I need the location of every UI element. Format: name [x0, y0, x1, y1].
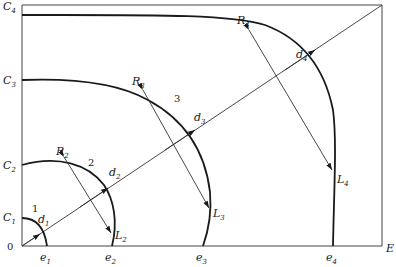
d1-arrow	[22, 234, 40, 246]
label-L4: L4	[336, 173, 349, 188]
label-d2: d2	[109, 166, 121, 181]
label-origin: 0	[7, 241, 13, 252]
label-C4: C4	[3, 0, 16, 15]
label-d3: d3	[194, 111, 206, 126]
label-e1: e1	[40, 251, 51, 266]
d2-arrow	[80, 188, 108, 207]
R2-L2-arrow	[64, 157, 111, 233]
curve-2-number: 2	[88, 157, 94, 168]
label-C3: C3	[3, 74, 16, 89]
curve-3	[22, 80, 211, 246]
label-e4: e4	[326, 251, 337, 266]
label-C2: C2	[3, 159, 16, 174]
label-E: E	[385, 242, 394, 255]
curve-4	[22, 15, 335, 246]
label-d1: d1	[38, 213, 50, 228]
label-d4: d4	[296, 48, 308, 63]
R3-L3-arrow	[143, 90, 209, 208]
curve-3-number: 3	[174, 93, 180, 104]
label-L2: L2	[114, 229, 127, 244]
label-R4: R4	[236, 14, 250, 29]
label-L3: L3	[212, 207, 225, 222]
label-e2: e2	[105, 251, 117, 266]
R4-L4-arrow	[249, 30, 332, 170]
label-R2: R2	[55, 145, 69, 160]
diagram-canvas: C4 C3 C2 C1 0 E e1 e2 e3 e4 1 2 3 d1 d2 …	[0, 0, 396, 267]
label-e3: e3	[196, 251, 208, 266]
label-C1: C1	[3, 211, 16, 226]
label-R3: R3	[131, 75, 145, 90]
d3-arrow	[165, 130, 195, 150]
